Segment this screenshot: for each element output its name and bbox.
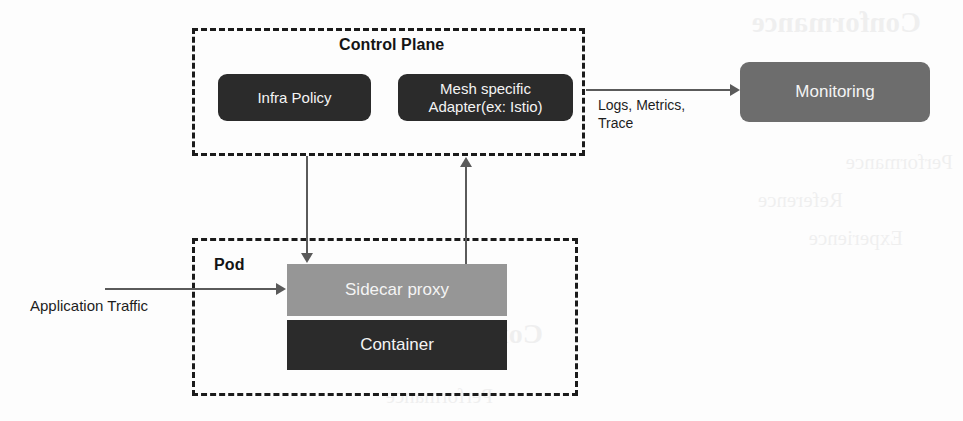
node-mesh-specific-adapter[interactable]: Mesh specific Adapter(ex: Istio) (398, 74, 573, 121)
group-control-plane-label: Control Plane (339, 36, 444, 54)
edge-label-application-traffic: Application Traffic (30, 296, 148, 315)
edge-infra-policy-to-sidecar-line (306, 156, 308, 254)
edge-label-logs-metrics-trace: Logs, Metrics, Trace (598, 97, 685, 133)
group-pod-label: Pod (214, 256, 245, 274)
node-container[interactable]: Container (287, 320, 507, 370)
edge-control-plane-to-monitoring-line (586, 89, 732, 91)
edge-application-traffic-arrowhead (276, 283, 286, 295)
edge-sidecar-to-mesh-adapter-line (465, 166, 467, 264)
edge-infra-policy-to-sidecar-arrowhead (301, 253, 313, 263)
edge-application-traffic-line (105, 288, 278, 290)
edge-sidecar-to-mesh-adapter-arrowhead (460, 157, 472, 167)
node-infra-policy[interactable]: Infra Policy (218, 74, 371, 121)
node-monitoring[interactable]: Monitoring (740, 62, 930, 122)
diagram-canvas: Conformance Performance Reference Experi… (0, 0, 963, 421)
group-pod (192, 238, 578, 396)
node-sidecar-proxy[interactable]: Sidecar proxy (287, 264, 507, 316)
edge-control-plane-to-monitoring-arrowhead (730, 84, 740, 96)
